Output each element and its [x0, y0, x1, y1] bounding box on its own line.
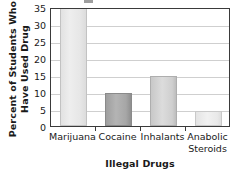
x-category-label: AnabolicSteroids: [181, 131, 234, 155]
x-category-label-line: Steroids: [181, 143, 234, 155]
y-tick-label: 30: [34, 20, 46, 31]
y-axis-tick-labels: 05101520253035: [26, 8, 46, 127]
bar-inhalants: [150, 76, 178, 126]
bar-cocaine: [105, 93, 133, 126]
bar-marijuana: [60, 8, 88, 126]
x-axis-title: Illegal Drugs: [50, 158, 230, 169]
y-tick-label: 35: [34, 3, 46, 14]
bar-series: [51, 9, 229, 126]
y-tick-label: 25: [34, 37, 46, 48]
cropped-title-fragment: [84, 0, 93, 3]
bar-chart-figure: Percent of Students Who Have Used Drug 0…: [0, 0, 240, 172]
x-axis-category-labels: MarijuanaCocaineInhalantsAnabolicSteroid…: [50, 131, 230, 157]
bar-anabolic-steroids: [195, 111, 223, 126]
y-tick-label: 5: [40, 105, 46, 116]
y-tick-label: 10: [34, 88, 46, 99]
y-tick-label: 20: [34, 54, 46, 65]
y-tick-label: 15: [34, 71, 46, 82]
x-category-label-line: Anabolic: [181, 131, 234, 143]
y-axis-title-line-1: Percent of Students Who: [7, 1, 19, 137]
plot-area: [50, 8, 230, 127]
